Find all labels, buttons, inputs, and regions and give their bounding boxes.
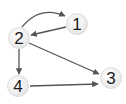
node-label: 4	[13, 77, 22, 96]
node-label: 1	[72, 15, 81, 34]
graph-canvas: 1 2 3 4	[0, 0, 126, 104]
node-2: 2	[9, 28, 30, 49]
edge-4-to-3	[30, 84, 98, 86]
edge-2-to-3	[29, 43, 99, 74]
node-label: 3	[106, 69, 115, 88]
edge-2-to-1	[22, 12, 65, 27]
node-1: 1	[67, 14, 88, 35]
node-label: 2	[14, 29, 23, 48]
edge-1-to-2	[31, 27, 66, 35]
node-4: 4	[8, 76, 29, 97]
node-3: 3	[101, 68, 122, 89]
